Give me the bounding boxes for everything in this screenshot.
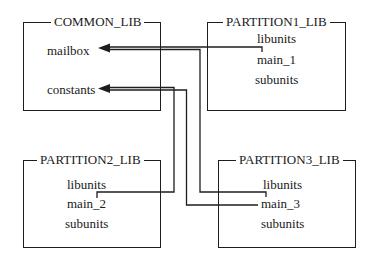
p1-item-main: main_1 bbox=[257, 52, 296, 67]
common-lib-box: COMMON_LIB bbox=[23, 22, 161, 111]
p2-item-libunits: libunits bbox=[67, 177, 106, 192]
common-item-constants: constants bbox=[47, 82, 95, 97]
p3-item-libunits: libunits bbox=[263, 177, 302, 192]
p2-item-subunits: subunits bbox=[65, 216, 108, 231]
p1-item-libunits: libunits bbox=[257, 31, 296, 46]
p2-item-main: main_2 bbox=[67, 196, 106, 211]
p3-item-main: main_3 bbox=[261, 196, 300, 211]
common-lib-title: COMMON_LIB bbox=[51, 14, 144, 30]
partition3-lib-title: PARTITION3_LIB bbox=[236, 152, 343, 168]
common-item-mailbox: mailbox bbox=[47, 43, 90, 58]
p1-item-subunits: subunits bbox=[255, 72, 298, 87]
partition2-lib-title: PARTITION2_LIB bbox=[37, 152, 144, 168]
p3-item-subunits: subunits bbox=[261, 216, 304, 231]
partition1-lib-title: PARTITION1_LIB bbox=[223, 14, 330, 30]
